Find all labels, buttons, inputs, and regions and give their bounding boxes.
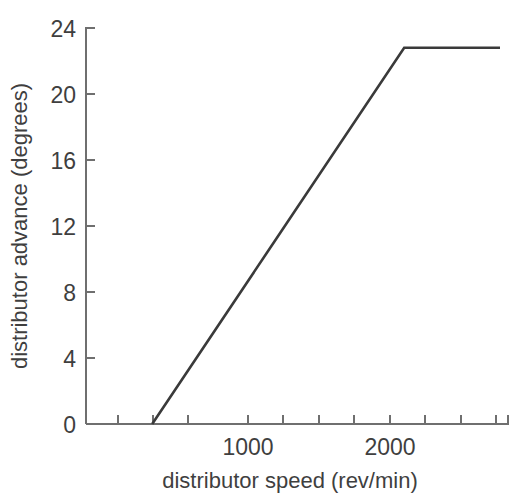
y-axis-title: distributor advance (degrees)	[7, 83, 32, 369]
y-tick-label-8: 8	[63, 280, 76, 306]
x-tick-label-1000: 1000	[222, 434, 273, 460]
line-chart: 24 20 16 12 8 4 0 1000 2000	[0, 0, 525, 496]
chart-figure: 24 20 16 12 8 4 0 1000 2000	[0, 0, 525, 496]
y-tick-label-12: 12	[50, 214, 76, 240]
axis-lines	[86, 28, 508, 424]
x-axis-title: distributor speed (rev/min)	[162, 468, 418, 493]
y-axis-ticks	[86, 28, 95, 358]
data-line-distributor-advance	[152, 48, 500, 424]
y-tick-label-0: 0	[63, 412, 76, 438]
x-axis-ticks	[118, 415, 496, 424]
y-tick-label-20: 20	[50, 82, 76, 108]
y-axis-tick-labels: 24 20 16 12 8 4 0	[50, 16, 76, 438]
y-tick-label-16: 16	[50, 148, 76, 174]
y-tick-label-4: 4	[63, 346, 76, 372]
x-tick-label-2000: 2000	[364, 434, 415, 460]
y-tick-label-24: 24	[50, 16, 76, 42]
series-distributor-advance	[152, 48, 500, 424]
x-axis-line	[86, 415, 508, 424]
x-axis-tick-labels: 1000 2000	[222, 434, 415, 460]
